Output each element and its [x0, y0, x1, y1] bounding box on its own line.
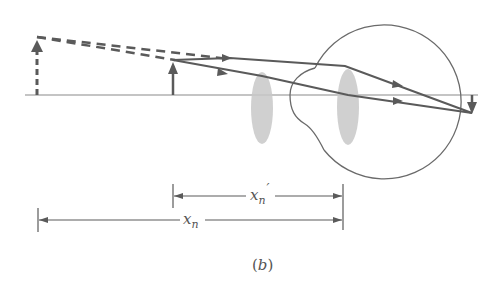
- label-xn-prime: xn′: [250, 181, 270, 207]
- magnifier-lens: [251, 72, 273, 144]
- virtual-image-arrow: [31, 40, 43, 95]
- light-rays: [173, 58, 472, 113]
- ray-diagram: xn′ xn (b): [0, 0, 497, 295]
- label-xn: xn: [183, 210, 199, 231]
- figure-caption: (b): [252, 256, 273, 274]
- virtual-ray-extensions: [37, 37, 230, 60]
- object-arrow: [168, 62, 178, 95]
- eyeball: [290, 25, 461, 179]
- ray-direction-arrows: [217, 54, 403, 105]
- eye-lens: [337, 69, 359, 145]
